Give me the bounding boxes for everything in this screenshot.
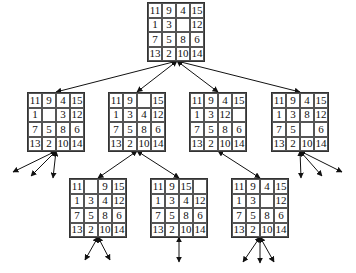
tile: 7: [190, 122, 204, 137]
tile: 10: [56, 137, 70, 152]
tile: 8: [218, 122, 232, 137]
tile: 1: [70, 194, 84, 209]
tile: 5: [165, 208, 179, 223]
tile: 2: [162, 47, 176, 62]
tile: 14: [151, 137, 165, 152]
tile: 9: [246, 179, 260, 194]
tile: 7: [28, 122, 42, 137]
tile: 4: [260, 179, 274, 194]
tile: 8: [300, 108, 314, 123]
tile: 1: [190, 108, 204, 123]
tile: 15: [151, 93, 165, 108]
tile: 13: [28, 137, 42, 152]
tile: 15: [190, 3, 204, 18]
tile: 5: [204, 122, 218, 137]
tile: 14: [193, 223, 207, 238]
tile: 2: [123, 137, 137, 152]
tile: 1: [148, 18, 162, 33]
tile: 2: [204, 137, 218, 152]
tile: 3: [165, 194, 179, 209]
tile: 1: [272, 108, 286, 123]
tile: 4: [176, 3, 190, 18]
tile: 12: [274, 194, 288, 209]
tile: 2: [42, 137, 56, 152]
tile: 1: [232, 194, 246, 209]
tile: 13: [232, 223, 246, 238]
puzzle-state-g2: 119151341275861321014: [150, 178, 208, 238]
tile: 13: [190, 137, 204, 152]
puzzle-state-c4: 119415138127561321014: [271, 92, 329, 152]
tile: 6: [314, 122, 328, 137]
tile: 2: [84, 223, 98, 238]
tile: 12: [151, 108, 165, 123]
blank-tile: [176, 18, 190, 33]
tile: 9: [42, 93, 56, 108]
tile: 13: [151, 223, 165, 238]
tile: 4: [218, 93, 232, 108]
tile: 14: [314, 137, 328, 152]
tile: 12: [70, 108, 84, 123]
tile: 8: [179, 208, 193, 223]
tile: 8: [56, 122, 70, 137]
tile: 2: [165, 223, 179, 238]
tile: 11: [109, 93, 123, 108]
tile: 1: [109, 108, 123, 123]
tile: 9: [123, 93, 137, 108]
tile: 11: [151, 179, 165, 194]
tile: 14: [274, 223, 288, 238]
tile: 3: [162, 18, 176, 33]
tile: 13: [272, 137, 286, 152]
puzzle-state-g1: 119151341275861321014: [69, 178, 127, 238]
tile: 2: [286, 137, 300, 152]
tile: 10: [260, 223, 274, 238]
tile: 5: [286, 122, 300, 137]
tile: 9: [204, 93, 218, 108]
tile: 12: [314, 108, 328, 123]
puzzle-state-g3: 119415131275861321014: [231, 178, 289, 238]
tile: 15: [112, 179, 126, 194]
edge-arrow: [260, 237, 274, 262]
tile: 9: [165, 179, 179, 194]
puzzle-state-c2: 119151341275861321014: [108, 92, 166, 152]
edge-arrow: [98, 237, 110, 260]
blank-tile: [137, 93, 151, 108]
tile: 5: [123, 122, 137, 137]
edge-arrow: [13, 151, 56, 172]
tile: 12: [193, 194, 207, 209]
tile: 7: [272, 122, 286, 137]
tile: 15: [314, 93, 328, 108]
tile: 13: [70, 223, 84, 238]
tile: 7: [232, 208, 246, 223]
edge-arrow: [243, 237, 260, 262]
edge-arrow: [300, 151, 322, 176]
blank-tile: [84, 179, 98, 194]
edge-arrow: [53, 151, 56, 178]
tile: 10: [218, 137, 232, 152]
edge-arrow: [85, 237, 98, 260]
edge-arrow: [56, 61, 177, 92]
tile: 5: [42, 122, 56, 137]
edge-arrow: [31, 151, 56, 176]
blank-tile: [193, 179, 207, 194]
tile: 1: [28, 108, 42, 123]
blank-tile: [300, 122, 314, 137]
tile: 5: [84, 208, 98, 223]
tile: 6: [112, 208, 126, 223]
tile: 3: [246, 194, 260, 209]
tile: 10: [300, 137, 314, 152]
tile: 3: [123, 108, 137, 123]
tile: 3: [204, 108, 218, 123]
tile: 5: [162, 32, 176, 47]
tile: 11: [232, 179, 246, 194]
tile: 12: [218, 108, 232, 123]
tile: 3: [84, 194, 98, 209]
tile: 9: [98, 179, 112, 194]
tile: 14: [112, 223, 126, 238]
blank-tile: [260, 194, 274, 209]
tile: 1: [151, 194, 165, 209]
tile: 12: [112, 194, 126, 209]
tile: 4: [179, 194, 193, 209]
edge-arrow: [137, 151, 179, 178]
tile: 7: [148, 32, 162, 47]
tile: 2: [246, 223, 260, 238]
